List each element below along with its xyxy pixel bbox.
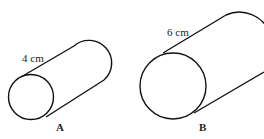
cylinder-b-length-label: 6 cm (167, 26, 189, 38)
cylinder-a-bottom-edge (46, 80, 104, 117)
cylinder-a-length-label: 4 cm (22, 52, 44, 64)
cylinder-b-back-arc (226, 12, 264, 33)
cylinder-a-front-face (9, 75, 54, 120)
cylinder-a-back-arc (74, 40, 112, 80)
cylinder-b-front-face (140, 53, 206, 119)
cylinder-b (140, 12, 264, 119)
cylinders-diagram: 4 cm A 6 cm B (0, 0, 264, 139)
cylinder-a-label: A (56, 121, 64, 133)
cylinder-b-label: B (199, 121, 207, 133)
